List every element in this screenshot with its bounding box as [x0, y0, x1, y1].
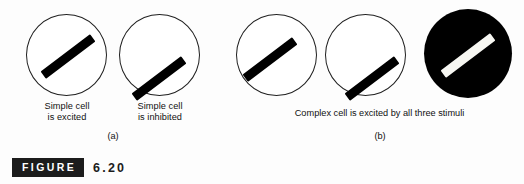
caption-line-2: is excited: [22, 112, 112, 123]
caption-line-1: Simple cell: [22, 101, 112, 112]
panel-letter-b: (b): [345, 131, 415, 142]
panel-letter-a: (a): [78, 131, 148, 142]
caption-line-2: is inhibited: [115, 112, 205, 123]
caption-complex-cell: Complex cell is excited by all three sti…: [247, 108, 512, 119]
caption-simple-cell-inhibited: Simple cell is inhibited: [115, 101, 205, 124]
stimulus-bar-simple-cell-excited: [41, 34, 96, 79]
figure-badge: FIGURE: [12, 158, 84, 177]
figure-illustration: Simple cell is excited Simple cell is in…: [0, 0, 524, 184]
caption-simple-cell-excited: Simple cell is excited: [22, 101, 112, 124]
stimulus-circle-complex-inverted: [424, 9, 512, 98]
stimulus-bar-simple-cell-inhibited: [132, 56, 187, 101]
stimulus-bar-complex-centered: [243, 37, 298, 82]
stimulus-circle-simple-cell-inhibited: [119, 14, 200, 96]
stimulus-bar-complex-inverted: [441, 33, 496, 78]
figure-label: FIGURE 6.20: [12, 158, 126, 177]
stimulus-circle-complex-centered: [236, 14, 317, 96]
caption-line-1: Simple cell: [115, 101, 205, 112]
stimulus-bar-complex-offset: [345, 56, 400, 101]
figure-number: 6.20: [93, 162, 126, 174]
stimulus-circle-simple-cell-excited: [26, 14, 107, 96]
stimulus-circle-complex-offset: [325, 14, 406, 96]
